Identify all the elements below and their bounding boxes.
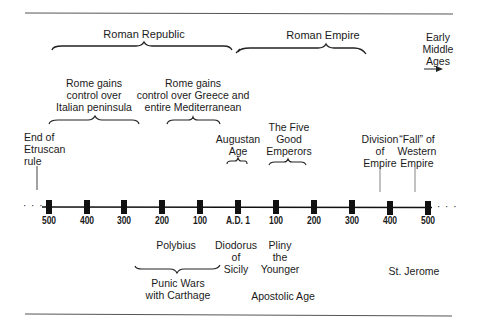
tick-ad1: A.D. 1 bbox=[226, 215, 250, 226]
event-division-of-empire: Division of Empire bbox=[362, 133, 399, 169]
event-punic-wars: Punic Wars with Carthage bbox=[146, 277, 211, 301]
tick-300bc: 300 bbox=[117, 215, 131, 226]
event-augustan-age: Augustan Age bbox=[216, 133, 260, 157]
event-diodorus-of-sicily: Diodorus of Sicily bbox=[215, 239, 257, 275]
ellipsis-right: · · · bbox=[437, 201, 458, 212]
tick-100bc: 100 bbox=[193, 215, 207, 226]
tick-400ad: 400 bbox=[383, 215, 397, 226]
tick-200bc: 200 bbox=[155, 215, 169, 226]
event-polybius: Polybius bbox=[156, 239, 196, 251]
tick-400bc: 400 bbox=[80, 215, 94, 226]
event-pliny-the-younger: Pliny the Younger bbox=[261, 239, 300, 275]
empire-brace bbox=[238, 44, 366, 54]
event-fall-western-empire: “Fall” of Western Empire bbox=[398, 133, 437, 169]
ellipsis-left: · · · bbox=[23, 200, 44, 211]
event-greece-mediterranean: Rome gains control over Greece and entir… bbox=[137, 77, 250, 113]
period-roman-republic: Roman Republic bbox=[103, 28, 184, 40]
event-apostolic-age: Apostolic Age bbox=[251, 290, 315, 302]
event-italian-peninsula: Rome gains control over Italian peninsul… bbox=[56, 77, 132, 113]
period-roman-empire: Roman Empire bbox=[286, 29, 359, 41]
tick-100ad: 100 bbox=[269, 215, 283, 226]
event-st-jerome: St. Jerome bbox=[389, 265, 440, 277]
republic-brace bbox=[52, 42, 232, 50]
event-end-etruscan-rule: End of Etruscan rule bbox=[24, 131, 65, 167]
tick-300ad: 300 bbox=[345, 215, 359, 226]
tick-500bc: 500 bbox=[42, 215, 56, 226]
event-five-good-emperors: The Five Good Emperors bbox=[266, 121, 312, 157]
period-early-middle-ages: Early Middle Ages bbox=[423, 31, 454, 67]
tick-200ad: 200 bbox=[307, 215, 321, 226]
tick-500ad: 500 bbox=[421, 215, 435, 226]
